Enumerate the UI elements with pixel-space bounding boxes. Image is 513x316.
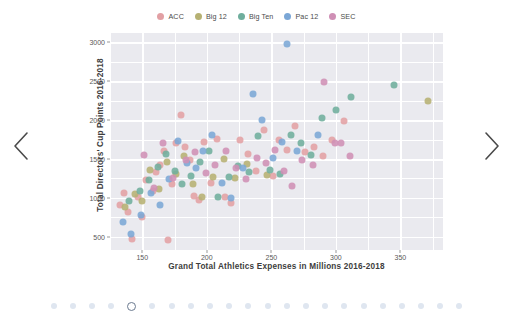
data-point[interactable] bbox=[283, 40, 290, 47]
pagination-dot[interactable] bbox=[361, 303, 367, 309]
data-point[interactable] bbox=[269, 155, 276, 162]
data-point[interactable] bbox=[207, 180, 214, 187]
legend-item-sec[interactable]: SEC bbox=[329, 12, 355, 21]
data-point[interactable] bbox=[206, 148, 213, 155]
data-point[interactable] bbox=[159, 140, 166, 147]
data-point[interactable] bbox=[199, 147, 206, 154]
data-point[interactable] bbox=[263, 160, 270, 167]
pagination-dot[interactable] bbox=[265, 303, 271, 309]
pagination-dot[interactable] bbox=[456, 303, 462, 309]
data-point[interactable] bbox=[338, 140, 345, 147]
data-point[interactable] bbox=[193, 164, 200, 171]
data-point[interactable] bbox=[220, 156, 227, 163]
data-point[interactable] bbox=[308, 151, 315, 158]
data-point[interactable] bbox=[347, 152, 354, 159]
data-point[interactable] bbox=[242, 175, 249, 182]
data-point[interactable] bbox=[288, 183, 295, 190]
data-point[interactable] bbox=[232, 175, 239, 182]
pagination-dot[interactable] bbox=[245, 303, 251, 309]
data-point[interactable] bbox=[162, 150, 169, 157]
data-point[interactable] bbox=[239, 164, 246, 171]
data-point[interactable] bbox=[215, 194, 222, 201]
data-point[interactable] bbox=[299, 156, 306, 163]
pagination-dot[interactable] bbox=[226, 303, 232, 309]
data-point[interactable] bbox=[252, 168, 259, 175]
data-point[interactable] bbox=[245, 151, 252, 158]
data-point[interactable] bbox=[163, 158, 170, 165]
pagination-dot[interactable] bbox=[322, 303, 328, 309]
data-point[interactable] bbox=[145, 177, 152, 184]
data-point[interactable] bbox=[281, 168, 288, 175]
pagination-dot[interactable] bbox=[169, 303, 175, 309]
data-point[interactable] bbox=[223, 147, 230, 154]
data-point[interactable] bbox=[294, 148, 301, 155]
data-point[interactable] bbox=[179, 180, 186, 187]
data-point[interactable] bbox=[283, 147, 290, 154]
data-point[interactable] bbox=[198, 194, 205, 201]
pagination-dot[interactable] bbox=[380, 303, 386, 309]
pagination-dot[interactable] bbox=[70, 303, 76, 309]
data-point[interactable] bbox=[208, 131, 215, 138]
data-point[interactable] bbox=[314, 132, 321, 139]
data-point[interactable] bbox=[210, 173, 217, 180]
pagination-dot[interactable] bbox=[303, 303, 309, 309]
data-point[interactable] bbox=[192, 148, 199, 155]
data-point[interactable] bbox=[390, 81, 397, 88]
data-point[interactable] bbox=[202, 170, 209, 177]
legend-item-pac-12[interactable]: Pac 12 bbox=[284, 12, 318, 21]
data-point[interactable] bbox=[340, 118, 347, 125]
data-point[interactable] bbox=[201, 138, 208, 145]
data-point[interactable] bbox=[267, 167, 274, 174]
data-point[interactable] bbox=[154, 163, 161, 170]
pagination-dot[interactable] bbox=[127, 302, 136, 311]
data-point[interactable] bbox=[147, 166, 154, 173]
data-point[interactable] bbox=[189, 180, 196, 187]
pagination-dot[interactable] bbox=[89, 303, 95, 309]
data-point[interactable] bbox=[171, 167, 178, 174]
data-point[interactable] bbox=[424, 98, 431, 105]
pagination-dot[interactable] bbox=[188, 303, 194, 309]
data-point[interactable] bbox=[119, 219, 126, 226]
data-point[interactable] bbox=[233, 164, 240, 171]
data-point[interactable] bbox=[287, 131, 294, 138]
data-point[interactable] bbox=[181, 144, 188, 151]
data-point[interactable] bbox=[278, 138, 285, 145]
data-point[interactable] bbox=[139, 197, 146, 204]
data-point[interactable] bbox=[228, 194, 235, 201]
carousel-prev-button[interactable] bbox=[8, 128, 38, 164]
data-point[interactable] bbox=[183, 156, 190, 163]
legend-item-acc[interactable]: ACC bbox=[157, 12, 183, 21]
data-point[interactable] bbox=[150, 185, 157, 192]
data-point[interactable] bbox=[259, 116, 266, 123]
pagination-dot[interactable] bbox=[284, 303, 290, 309]
pagination-dot[interactable] bbox=[149, 303, 155, 309]
data-point[interactable] bbox=[157, 202, 164, 209]
pagination-dot[interactable] bbox=[51, 303, 57, 309]
data-point[interactable] bbox=[140, 151, 147, 158]
data-point[interactable] bbox=[177, 112, 184, 119]
data-point[interactable] bbox=[255, 132, 262, 139]
pagination-dot[interactable] bbox=[399, 303, 405, 309]
data-point[interactable] bbox=[121, 190, 128, 197]
data-point[interactable] bbox=[254, 155, 261, 162]
data-point[interactable] bbox=[250, 91, 257, 98]
data-point[interactable] bbox=[137, 212, 144, 219]
data-point[interactable] bbox=[319, 152, 326, 159]
carousel-next-button[interactable] bbox=[475, 128, 505, 164]
data-point[interactable] bbox=[127, 231, 134, 238]
data-point[interactable] bbox=[272, 147, 279, 154]
data-point[interactable] bbox=[348, 94, 355, 101]
data-point[interactable] bbox=[310, 144, 317, 151]
data-point[interactable] bbox=[237, 136, 244, 143]
data-point[interactable] bbox=[225, 173, 232, 180]
data-point[interactable] bbox=[165, 237, 172, 244]
data-point[interactable] bbox=[298, 140, 305, 147]
pagination-dot[interactable] bbox=[108, 303, 114, 309]
data-point[interactable] bbox=[188, 172, 195, 179]
data-point[interactable] bbox=[136, 188, 143, 195]
data-point[interactable] bbox=[126, 198, 133, 205]
data-point[interactable] bbox=[175, 138, 182, 145]
data-point[interactable] bbox=[309, 161, 316, 168]
data-point[interactable] bbox=[170, 175, 177, 182]
data-point[interactable] bbox=[291, 122, 298, 129]
